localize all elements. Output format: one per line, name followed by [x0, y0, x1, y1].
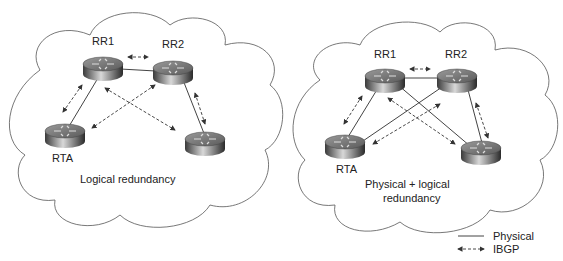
diagram-canvas: RR1 RR2 RTA Logical redundancy RR1 RR2 R…: [0, 0, 563, 261]
left-router-rr2: [153, 61, 193, 85]
left-label-rr1: RR1: [92, 35, 114, 47]
left-router-rr1: [83, 57, 123, 81]
right-router-rr1: [365, 69, 405, 93]
right-router-rta: [325, 135, 365, 159]
legend-physical-label: Physical: [493, 230, 534, 242]
legend-ibgp-label: IBGP: [493, 243, 519, 255]
right-router-4: [461, 141, 501, 165]
right-caption-line1: Physical + logical: [365, 178, 450, 190]
left-label-rta: RTA: [52, 152, 74, 164]
left-router-rta: [45, 124, 85, 148]
left-cloud: [9, 13, 282, 228]
right-router-rr2: [437, 69, 477, 93]
right-label-rr2: RR2: [445, 48, 467, 60]
left-router-4: [185, 132, 225, 156]
left-caption: Logical redundancy: [80, 173, 176, 185]
right-caption-line2: redundancy: [383, 192, 441, 204]
right-label-rta: RTA: [336, 163, 358, 175]
left-label-rr2: RR2: [162, 38, 184, 50]
right-label-rr1: RR1: [374, 48, 396, 60]
